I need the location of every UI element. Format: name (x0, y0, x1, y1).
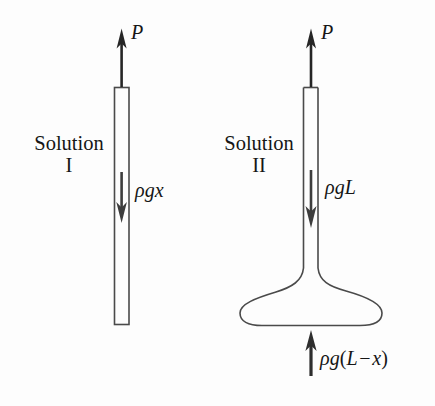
force-arrow-down-rho-g-L (306, 170, 317, 228)
label-buoyant-rho-g-L-minus-x: ρg(L−x) (320, 348, 388, 369)
label-first-term: L (347, 347, 358, 369)
label-close-paren: ) (381, 347, 388, 369)
force-arrow-down-rho-g-x (116, 172, 127, 223)
label-minus-operator: − (358, 347, 372, 369)
force-arrow-up-rho-g-L-minus-x (305, 330, 316, 376)
label-weight-rho-g-x: ρgx (135, 180, 164, 201)
force-arrow-up-P-solution-2 (306, 29, 316, 88)
caption-solution-1-line1: Solution (34, 132, 104, 154)
force-arrow-up-P-solution-1 (117, 29, 127, 88)
caption-solution-2-line1: Solution (224, 132, 294, 154)
label-prefix: ρg (320, 347, 340, 369)
label-tension-P-solution-1: P (131, 22, 143, 43)
label-tension-P-solution-2: P (321, 22, 333, 43)
label-open-paren: ( (340, 347, 347, 369)
figure-drawing (0, 0, 435, 406)
caption-solution-1-line2: I (21, 155, 117, 177)
label-weight-rho-g-L: ρgL (325, 177, 356, 198)
bulb-outline (240, 268, 382, 326)
physics-figure: Solution I Solution II P P ρgx ρgL ρg(L−… (0, 0, 435, 406)
label-second-term: x (372, 347, 381, 369)
caption-solution-1: Solution I (21, 133, 117, 176)
caption-solution-2: Solution II (211, 133, 307, 176)
caption-solution-2-line2: II (211, 155, 307, 177)
